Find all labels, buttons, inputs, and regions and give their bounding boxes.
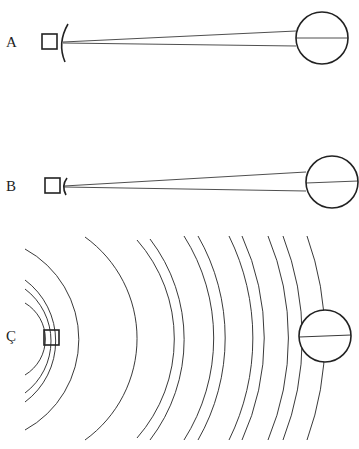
beam-line-bottom xyxy=(63,43,296,46)
beam-line-top xyxy=(64,172,306,186)
panel-c xyxy=(25,236,351,440)
beam-line-top xyxy=(63,31,296,42)
beam-line-bottom xyxy=(64,187,306,191)
source-square-icon xyxy=(42,34,57,49)
source-square-icon xyxy=(45,178,60,193)
panel-a xyxy=(42,12,348,64)
source-square-icon xyxy=(44,330,59,345)
panel-b xyxy=(45,156,358,208)
reflector-small-arc-icon xyxy=(64,178,67,195)
diagram-canvas xyxy=(0,0,359,449)
sphere-diameter xyxy=(306,181,358,183)
wavefronts xyxy=(25,236,325,440)
